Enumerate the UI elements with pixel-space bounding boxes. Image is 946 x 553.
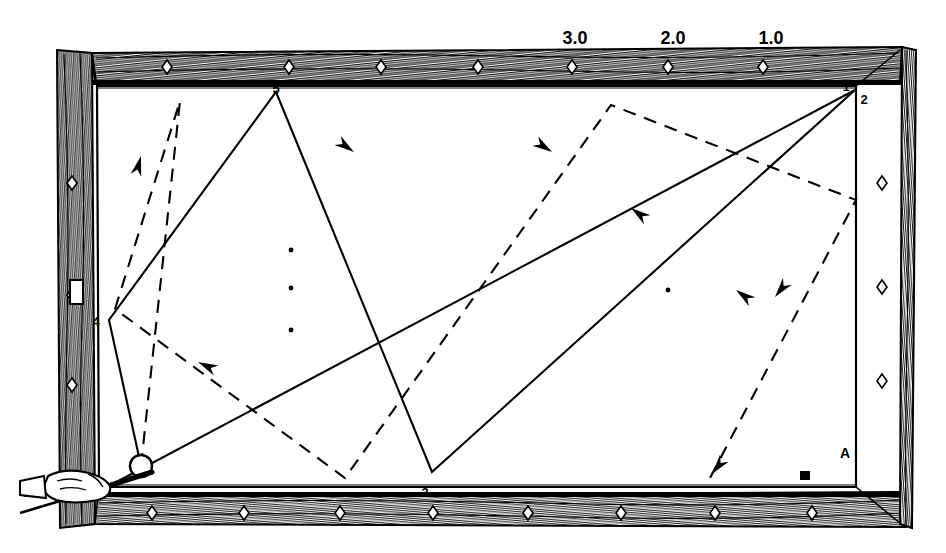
rail-bottom	[90, 492, 906, 527]
rail-top	[92, 47, 902, 85]
object-ball-b-marker	[800, 471, 810, 480]
rail-number-4: 4	[92, 314, 100, 329]
table-spot-0	[289, 248, 294, 253]
billiard-table-figure: A 3.0 2.0 1.0 5 1 2 3	[0, 0, 946, 553]
table-spot-3	[666, 288, 671, 293]
left-side-pocket	[70, 280, 83, 304]
billiard-diagram-root: A 3.0 2.0 1.0 5 1 2 3	[0, 0, 946, 553]
scale-label-3: 3.0	[562, 28, 587, 48]
scale-label-1: 1.0	[758, 28, 783, 48]
rail-right	[900, 47, 916, 528]
rail-number-3: 3	[421, 485, 428, 500]
playing-surface	[97, 86, 856, 487]
table-spot-2	[289, 328, 294, 333]
rail-number-2: 2	[860, 92, 867, 107]
rail-number-1: 1	[842, 79, 849, 94]
table-spot-1	[289, 286, 294, 291]
scale-label-2: 2.0	[660, 28, 685, 48]
hand-cuff	[20, 476, 46, 498]
object-ball-a-label: A	[840, 445, 850, 461]
rail-number-5: 5	[272, 81, 279, 96]
